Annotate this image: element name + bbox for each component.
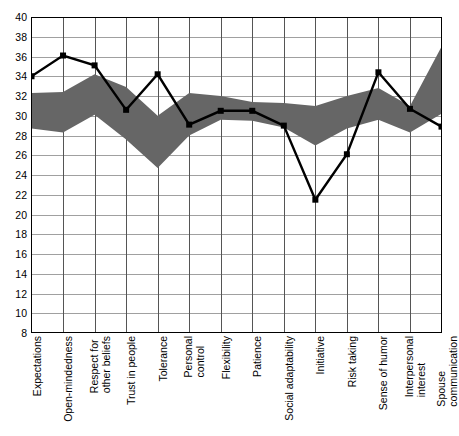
data-point-marker [218,108,224,114]
x-axis-tick-label-line: Risk taking [347,336,359,387]
chart-canvas [31,17,442,333]
y-axis-tick-label: 26 [15,150,27,161]
data-point-marker [407,106,413,112]
y-axis-tick-label: 24 [15,170,27,181]
y-axis-tick-label: 40 [15,12,27,23]
y-axis-tick-label: 12 [15,288,27,299]
y-axis-tick-label: 20 [15,209,27,220]
x-axis-tick-label: Risk taking [347,336,359,387]
x-axis-tick-label: Patience [252,336,264,377]
x-axis-tick-label: Sense of humor [378,336,390,410]
x-axis-tick-label-line: Patience [252,336,264,377]
x-axis-tick-label: Personalcontrol [183,336,206,377]
y-axis-tick-label: 34 [15,71,27,82]
data-point-marker [249,108,255,114]
y-axis-tick-label: 10 [15,308,27,319]
x-axis-tick: Trust in people [111,336,140,436]
x-axis-tick-label: Interpersonalinterest [404,336,427,397]
x-axis-tick: Personalcontrol [175,336,204,436]
data-point-marker [281,123,287,129]
y-axis-tick-label: 38 [15,32,27,43]
x-axis-tick: Flexibility [206,336,235,436]
x-axis-tick-label: Expectations [32,336,44,396]
data-point-marker [155,71,161,77]
x-axis-tick-label-line: Open-mindedness [63,336,75,422]
y-axis-tick-label: 18 [15,229,27,240]
x-axis-tick-label-line: other beliefs [100,336,112,393]
data-point-marker [312,197,318,203]
x-axis-tick-label: Trust in people [126,336,138,405]
data-point-marker [92,62,98,68]
x-axis-tick-label: Respect forother beliefs [89,336,112,393]
data-point-marker [344,151,350,157]
x-axis-tick-label: Tolerance [158,336,170,382]
x-axis-tick: Respect forother beliefs [80,336,109,436]
x-axis-tick: Interpersonalinterest [395,336,424,436]
x-axis-tick-label-line: communication [447,336,459,407]
x-axis-tick: Risk taking [332,336,361,436]
x-axis-tick-label-line: interest [416,336,428,397]
y-axis-tick-label: 16 [15,249,27,260]
data-point-marker [375,69,381,75]
x-axis-tick-label: Initiative [315,336,327,375]
x-axis-tick-label-line: Respect for [89,336,101,393]
x-axis-tick-label: Spousecommunication [436,336,459,407]
y-axis-tick-label: 14 [15,269,27,280]
data-point-marker [60,53,66,59]
x-axis-tick: Spousecommunication [427,336,456,436]
y-axis-tick-label: 32 [15,91,27,102]
x-axis-tick-label-line: Flexibility [221,336,233,379]
y-axis-tick-label: 36 [15,51,27,62]
x-axis-tick-label-line: Trust in people [126,336,138,405]
x-axis-tick-label-line: Initiative [315,336,327,375]
x-axis-tick: Tolerance [143,336,172,436]
x-axis-tick: Open-mindedness [48,336,77,436]
x-axis-tick: Expectations [17,336,46,436]
x-axis-tick-label-line: Sense of humor [378,336,390,410]
x-axis-tick-label-line: control [195,336,207,377]
x-axis: ExpectationsOpen-mindednessRespect forot… [31,333,442,436]
y-axis-tick-label: 28 [15,130,27,141]
x-axis-tick-label-line: Social adaptability [284,336,296,421]
x-axis-tick: Patience [238,336,267,436]
x-axis-tick: Initiative [301,336,330,436]
x-axis-tick-label: Social adaptability [284,336,296,421]
x-axis-tick-label-line: Tolerance [158,336,170,382]
x-axis-tick-label: Flexibility [221,336,233,379]
data-point-marker [186,122,192,128]
y-axis-tick-label: 22 [15,190,27,201]
plot-area [31,17,442,333]
y-axis-tick-label: 30 [15,111,27,122]
x-axis-tick: Social adaptability [269,336,298,436]
x-axis-tick: Sense of humor [364,336,393,436]
x-axis-tick-label-line: Spouse [436,336,448,407]
x-axis-tick-label-line: Interpersonal [404,336,416,397]
data-point-marker [123,107,129,113]
x-axis-tick-label: Open-mindedness [63,336,75,422]
x-axis-tick-label-line: Expectations [32,336,44,396]
